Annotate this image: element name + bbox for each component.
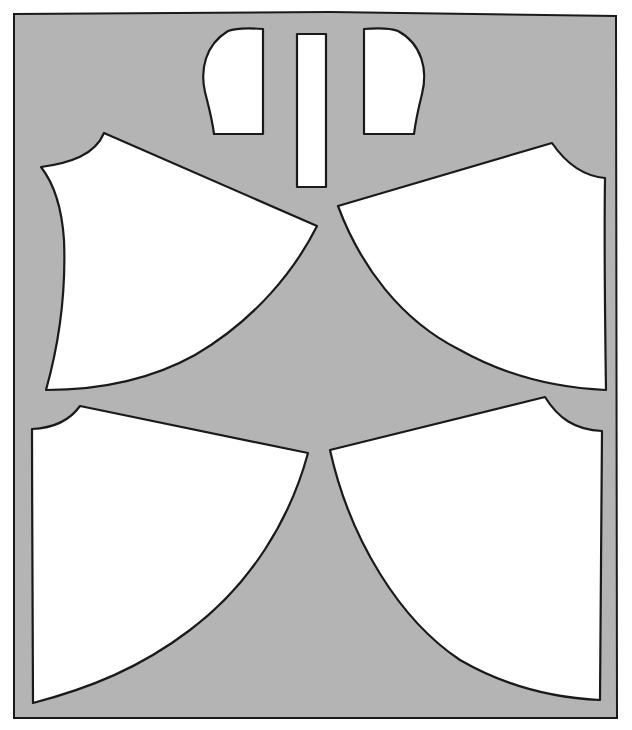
pocket-right-piece	[364, 28, 424, 134]
waistband-strip-piece	[297, 34, 326, 187]
pocket-left-piece	[203, 28, 263, 134]
pattern-layout-svg	[0, 0, 632, 730]
pattern-layout-diagram: sewing-pattern-layout	[0, 0, 632, 730]
